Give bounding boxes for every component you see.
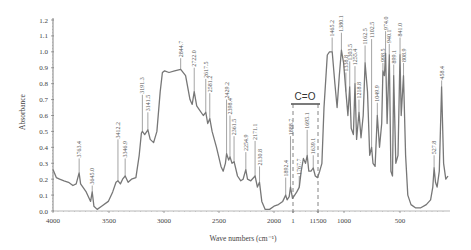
carbonyl-label: C=O: [295, 91, 316, 102]
y-tick-label: 0.3: [39, 160, 48, 168]
y-axis-title: Absorbance: [18, 93, 27, 129]
x-tick-label: 11500: [309, 217, 327, 225]
x-tick-label: 1000: [337, 217, 352, 225]
peak-label: 841.0: [397, 23, 403, 37]
x-tick-label: 2000: [267, 217, 282, 225]
peak-label: 1102.5: [369, 22, 375, 38]
peak-label: 2254.9: [243, 135, 249, 152]
y-tick-label: 0.9: [39, 64, 48, 72]
peak-label: 1639.1: [310, 138, 316, 155]
peak-label: 899.1: [391, 50, 397, 64]
y-tick-label: 0.8: [39, 80, 48, 88]
x-axis-title: Wave numbers (cm⁻¹): [210, 234, 277, 243]
peak-label: 974.0: [383, 17, 389, 31]
x-tick-label: 4000: [46, 217, 61, 225]
y-tick-label: 0.1: [39, 192, 48, 200]
peak-label: 1218.8: [356, 82, 362, 99]
peak-label: 1465.2: [329, 20, 335, 37]
y-tick-label: 1.1: [39, 32, 48, 40]
peak-label: 998.5: [380, 49, 386, 63]
y-tick-label: 1.2: [39, 17, 48, 25]
peak-label: 2429.2: [224, 82, 230, 99]
y-tick-label: 0.2: [39, 176, 48, 184]
x-tick-label: 500: [395, 217, 406, 225]
peak-label: 2722.0: [191, 50, 197, 67]
y-tick-label: 0.7: [39, 96, 48, 104]
x-tick-label: 3500: [102, 217, 117, 225]
y-tick-label: 0.4: [39, 144, 48, 152]
peak-label: 3645.0: [89, 168, 95, 185]
peak-label: 527.8: [431, 141, 437, 155]
peak-label: 1888.7: [288, 119, 294, 136]
peak-label: 2361.5: [231, 119, 237, 136]
x-axis: 400035003000250020001115001000500: [46, 211, 450, 225]
peak-label: 3191.3: [139, 77, 145, 94]
peak-label: 458.4: [439, 66, 445, 80]
peak-label: 1255.4: [352, 49, 358, 66]
peak-label: 2844.7: [178, 41, 184, 58]
y-tick-label: 0.6: [39, 112, 48, 120]
y-tick-label: 1.0: [39, 48, 48, 56]
peak-label: 1767.7: [296, 159, 302, 176]
peak-label: 2581.2: [207, 76, 213, 93]
peak-label: 3141.5: [145, 95, 151, 112]
peak-label: 2398.4: [227, 98, 233, 115]
y-tick-label: 0.5: [39, 128, 48, 136]
peak-label: 2617.5: [203, 61, 209, 78]
x-tick-label: 1: [291, 217, 295, 225]
y-tick-label: 0.0: [39, 208, 48, 216]
peak-label: 2130.8: [257, 149, 263, 166]
x-tick-label: 2500: [212, 217, 227, 225]
peak-label: 1049.9: [374, 85, 380, 102]
x-tick-label: 3000: [157, 217, 172, 225]
peak-label: 940.1: [386, 29, 392, 43]
peak-label: 1892.4: [283, 160, 289, 177]
peak-label: 1162.5: [362, 28, 368, 44]
peak-label: 1695.1: [304, 112, 310, 129]
peak-label: 808.9: [401, 49, 407, 63]
y-axis: 0.00.10.20.30.40.50.60.70.80.91.01.11.2: [39, 17, 54, 216]
peak-label: 3763.4: [76, 141, 82, 158]
peak-label: 2171.1: [252, 124, 258, 141]
ftir-absorbance-chart: 0.00.10.20.30.40.50.60.70.80.91.01.11.2 …: [0, 0, 471, 250]
peak-label: 3346.9: [122, 141, 128, 158]
peak-label: 1380.1: [338, 15, 344, 32]
spectrum-line: [53, 50, 448, 209]
peak-label: 3412.2: [115, 122, 121, 139]
